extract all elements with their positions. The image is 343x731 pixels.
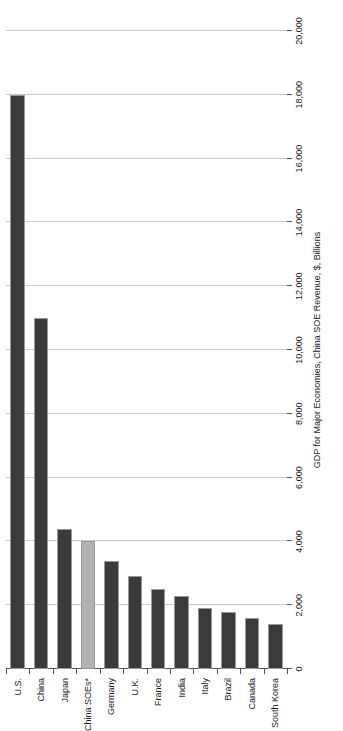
bar — [10, 95, 25, 669]
category-axis-tick — [240, 669, 241, 674]
bar — [81, 541, 96, 669]
category-axis-label: Germany — [106, 678, 116, 715]
value-axis-tick — [287, 604, 292, 605]
category-axis-label: South Korea — [270, 678, 280, 728]
bar-row — [128, 31, 143, 669]
bar-row — [81, 31, 96, 669]
bar — [128, 577, 143, 670]
category-axis-label: U.S. — [13, 678, 23, 696]
value-axis-tick-label: 6,000 — [294, 466, 304, 489]
category-axis-label: India — [177, 678, 187, 698]
bar-row — [268, 31, 283, 669]
value-axis-tick — [287, 94, 292, 95]
value-axis-tick-label: 8,000 — [294, 403, 304, 426]
value-axis-tick-label: 20,000 — [294, 17, 304, 45]
value-axis-tick-label: 12,000 — [294, 272, 304, 300]
category-axis-tick — [53, 669, 54, 674]
value-axis-tick-label: 4,000 — [294, 530, 304, 553]
bar — [198, 608, 213, 669]
category-axis-tick — [170, 669, 171, 674]
category-axis-label: U.K. — [130, 678, 140, 696]
axis-title: GDP for Major Economies, China SOE Reven… — [312, 31, 323, 669]
value-axis-tick — [287, 158, 292, 159]
bar — [174, 596, 189, 669]
category-axis-tick — [29, 669, 30, 674]
bar — [34, 318, 49, 669]
value-axis-tick — [287, 413, 292, 414]
value-axis-tick-label: 16,000 — [294, 145, 304, 173]
bar-row — [198, 31, 213, 669]
category-axis-tick — [123, 669, 124, 674]
bar — [245, 618, 260, 669]
category-axis-labels: U.S.ChinaJapanChina SOEs*GermanyU.K.Fran… — [6, 671, 287, 731]
value-axis-tick-label: 2,000 — [294, 594, 304, 617]
bar — [104, 561, 119, 669]
bar — [221, 612, 236, 669]
bar — [151, 589, 166, 669]
bar-row — [221, 31, 236, 669]
value-axis-tick — [287, 30, 292, 31]
category-axis-label: China — [36, 678, 46, 702]
category-axis-tick — [217, 669, 218, 674]
bar — [268, 624, 283, 669]
value-axis-tick — [287, 668, 292, 669]
category-axis-tick — [76, 669, 77, 674]
chart-rotation-stage: U.S.ChinaJapanChina SOEs*GermanyU.K.Fran… — [0, 0, 343, 731]
category-axis-tick — [193, 669, 194, 674]
value-axis-tick-label: 18,000 — [294, 81, 304, 109]
value-axis-tick — [287, 540, 292, 541]
value-axis-tick — [287, 477, 292, 478]
category-axis-tick — [6, 669, 7, 674]
category-axis-label: Brazil — [223, 678, 233, 701]
bar-row — [34, 31, 49, 669]
bar-row — [104, 31, 119, 669]
category-axis-label: Canada — [247, 678, 257, 710]
category-axis-tick — [147, 669, 148, 674]
category-axis-tick — [100, 669, 101, 674]
category-axis-tick — [264, 669, 265, 674]
category-axis-label: China SOEs* — [83, 678, 93, 731]
bar — [57, 529, 72, 669]
value-axis-tick — [287, 349, 292, 350]
bar-row — [10, 31, 25, 669]
value-axis-tick-label: 0 — [294, 666, 304, 671]
bar-row — [151, 31, 166, 669]
bar-row — [245, 31, 260, 669]
value-axis-tick — [287, 285, 292, 286]
category-axis-label: France — [153, 678, 163, 706]
value-axis-tick-label: 14,000 — [294, 209, 304, 237]
plot-area — [6, 31, 287, 669]
category-axis-label: Japan — [60, 678, 70, 703]
bars — [6, 31, 287, 669]
value-axis-tick-label: 10,000 — [294, 336, 304, 364]
bar-chart: U.S.ChinaJapanChina SOEs*GermanyU.K.Fran… — [0, 0, 343, 731]
bar-row — [57, 31, 72, 669]
category-axis-label: Italy — [200, 678, 210, 695]
category-axis-tick — [287, 669, 288, 674]
value-axis-tick — [287, 221, 292, 222]
bar-row — [174, 31, 189, 669]
